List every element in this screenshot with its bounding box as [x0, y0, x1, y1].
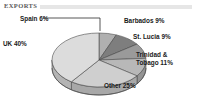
slice-label-trinidad-line2: Tobago 11%: [136, 59, 173, 66]
slice-label-trinidad-tobago: Trinidad &Tobago 11%: [136, 51, 194, 66]
slice-label-st-lucia: St. Lucia 9%: [133, 33, 171, 41]
slice-label-trinidad-line1: Trinidad &: [136, 51, 167, 58]
slice-label-uk: UK 40%: [3, 40, 27, 48]
slice-label-other: Other 25%: [104, 82, 136, 90]
slice-label-spain: Spain 6%: [20, 15, 48, 23]
figure-header: EXPORTS: [0, 0, 198, 14]
pie-chart-area: Spain 6% UK 40% Barbados 9% St. Lucia 9%…: [0, 13, 198, 99]
header-divider: [40, 5, 192, 9]
slice-label-barbados: Barbados 9%: [124, 17, 165, 25]
pie-slices: [52, 33, 146, 87]
page-title: EXPORTS: [4, 2, 37, 9]
exports-pie-chart-figure: EXPORTS Spain 6% UK 40% Barbados 9% St. …: [0, 0, 198, 99]
spain-leader-line: [43, 18, 100, 31]
